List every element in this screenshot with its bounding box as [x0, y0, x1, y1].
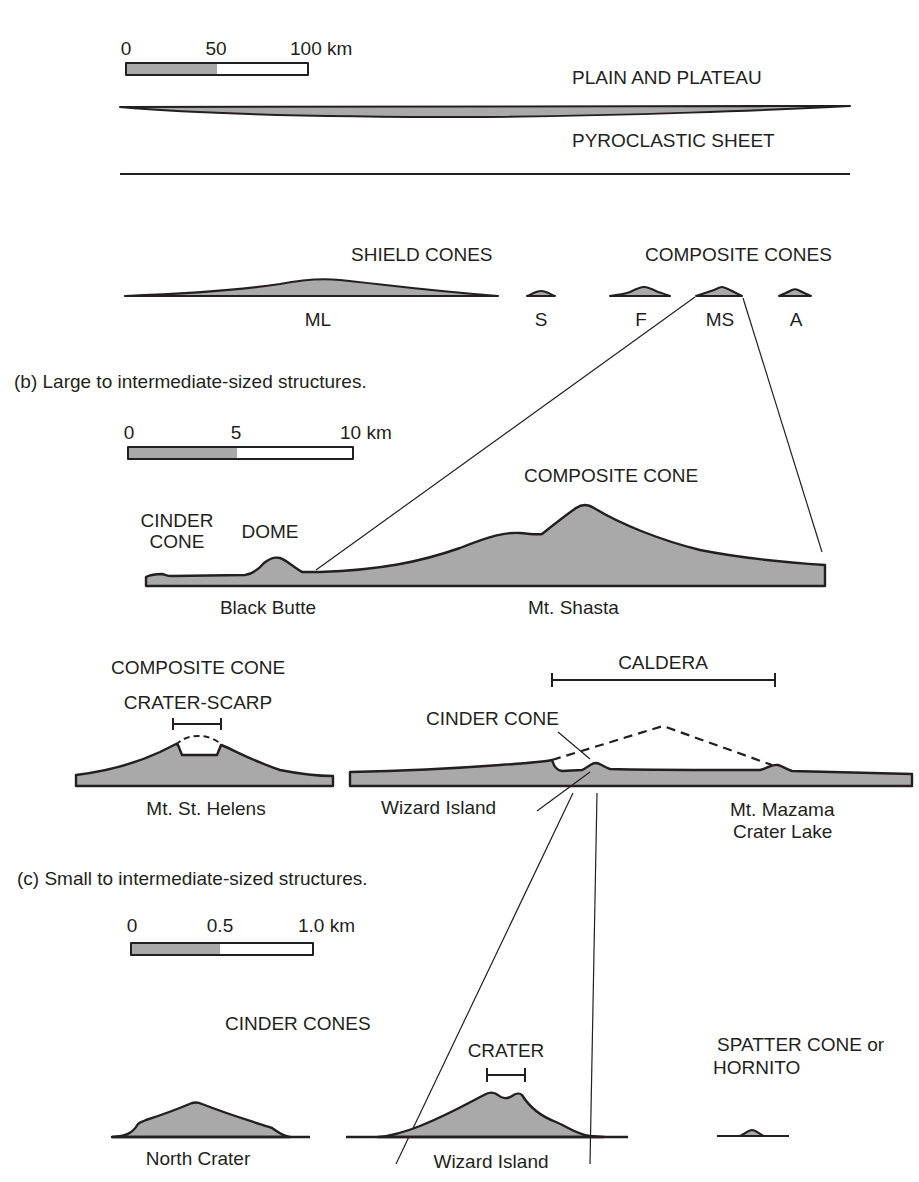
- cone-label-f: F: [635, 309, 647, 331]
- scale-tick-0: 0: [127, 915, 138, 937]
- cone-label-ml: ML: [305, 309, 331, 331]
- wizard-island-detail-profile: [378, 1093, 604, 1137]
- scale-bar-10km: [128, 447, 353, 459]
- section-c-caption: (c) Small to intermediate-sized structur…: [17, 868, 368, 890]
- north-crater-profile: [112, 1102, 290, 1137]
- cone-label-ms: MS: [706, 309, 735, 331]
- north-crater-label: North Crater: [146, 1148, 251, 1170]
- cinder-cones-label: CINDER CONES: [225, 1013, 371, 1035]
- spatter-cone-label: SPATTER CONE or: [717, 1034, 884, 1056]
- scale-tick-100km: 100 km: [290, 38, 352, 60]
- volcanic-landforms-diagram: [0, 0, 919, 1182]
- composite-cone-a: [779, 289, 811, 296]
- scale-tick-0: 0: [124, 422, 135, 444]
- cinder-cone-label-line1: CINDER: [141, 510, 214, 532]
- hornito-label: HORNITO: [713, 1057, 800, 1079]
- composite-cone-ms: [696, 287, 742, 296]
- scale-bar-1km: [131, 943, 313, 955]
- plain-and-plateau-label: PLAIN AND PLATEAU: [572, 67, 762, 89]
- cinder-cone-label-line2: CONE: [150, 531, 205, 553]
- mt-st-helens-label: Mt. St. Helens: [146, 798, 265, 820]
- black-butte-shasta-profile: [146, 505, 825, 586]
- scale-tick-0: 0: [121, 38, 132, 60]
- cone-label-a: A: [790, 309, 803, 331]
- scale-tick-0-5: 0.5: [207, 915, 233, 937]
- cone-label-s: S: [535, 309, 548, 331]
- black-butte-label: Black Butte: [220, 597, 316, 619]
- composite-cone-label: COMPOSITE CONE: [524, 465, 698, 487]
- scale-tick-10km: 10 km: [340, 422, 392, 444]
- scale-tick-5: 5: [231, 422, 242, 444]
- crater-lake-label: Crater Lake: [733, 821, 832, 843]
- mt-st-helens-profile: [76, 743, 333, 786]
- crater-label: CRATER: [468, 1040, 545, 1062]
- composite-cones-label: COMPOSITE CONES: [645, 244, 832, 266]
- shield-cone-s: [527, 291, 555, 296]
- crater-bracket: [487, 1068, 525, 1082]
- scale-tick-50: 50: [205, 38, 226, 60]
- composite-cone-helens-label: COMPOSITE CONE: [111, 657, 285, 679]
- crater-scarp-label: CRATER-SCARP: [124, 692, 273, 714]
- scale-tick-1km: 1.0 km: [298, 915, 355, 937]
- pyroclastic-sheet-label: PYROCLASTIC SHEET: [572, 130, 775, 152]
- projection-line: [590, 793, 597, 1164]
- cinder-cone-wizard-label: CINDER CONE: [426, 708, 559, 730]
- wizard-island-detail-label: Wizard Island: [433, 1151, 548, 1173]
- mt-mazama-profile: [350, 760, 912, 786]
- mt-mazama-label: Mt. Mazama: [730, 799, 835, 821]
- crater-scarp-bracket: [173, 718, 221, 730]
- scale-bar-100km: [126, 63, 308, 75]
- crater-dashed-outline: [176, 736, 222, 745]
- shield-cones-label: SHIELD CONES: [351, 244, 492, 266]
- dome-label: DOME: [242, 521, 299, 543]
- projection-line: [743, 298, 822, 552]
- caldera-dashed-outline: [552, 726, 772, 765]
- shield-cone-ml: [125, 279, 498, 296]
- section-b-caption: (b) Large to intermediate-sized structur…: [14, 371, 367, 393]
- composite-cone-f: [610, 287, 670, 296]
- plain-and-plateau-lens: [120, 106, 850, 117]
- cinder-cone-leader: [558, 732, 590, 759]
- caldera-label: CALDERA: [618, 652, 708, 674]
- mt-shasta-label: Mt. Shasta: [528, 597, 619, 619]
- caldera-bracket: [552, 673, 775, 687]
- wizard-island-label: Wizard Island: [381, 797, 496, 819]
